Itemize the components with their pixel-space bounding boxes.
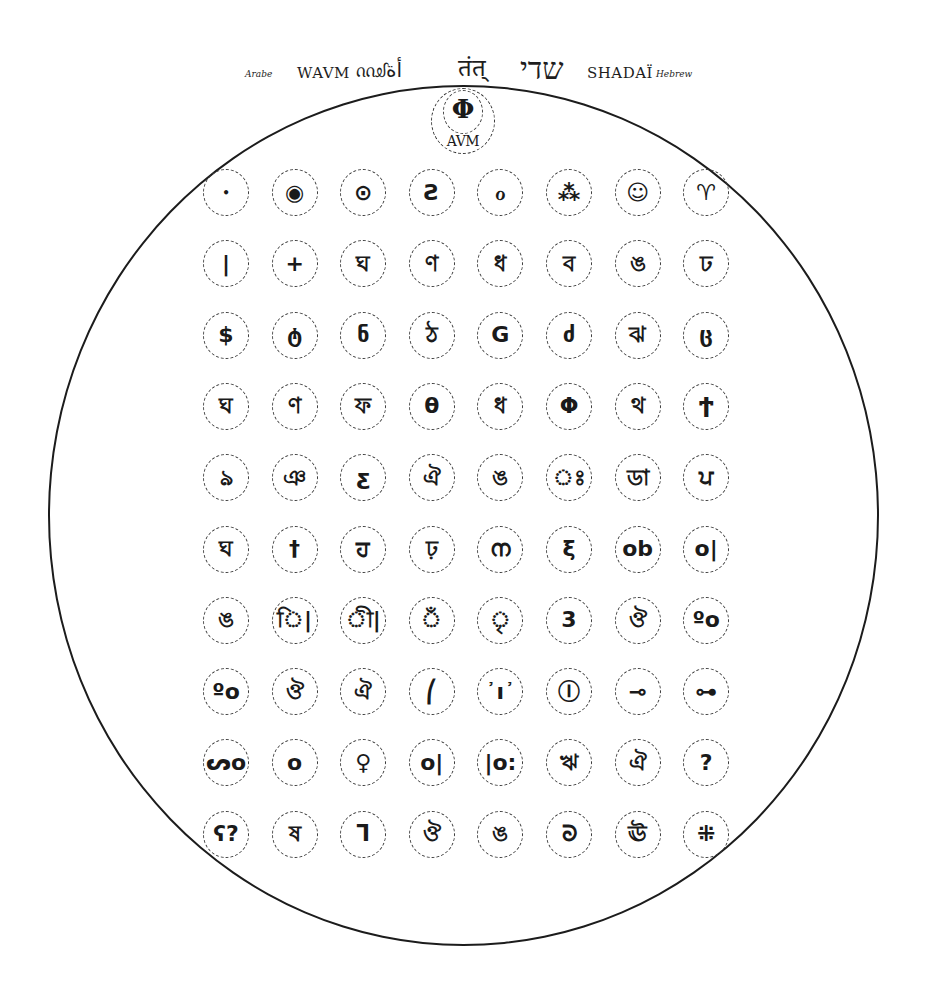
glyph-medallion: 3: [546, 597, 592, 644]
glyph-medallion: ঝ: [615, 312, 661, 359]
glyph-symbol-icon: ষ: [289, 823, 301, 845]
glyph-symbol-icon: ঙ: [218, 609, 234, 631]
glyph-symbol-icon: ნ: [357, 324, 370, 346]
glyph-medallion: ধ: [477, 240, 523, 287]
glyph-medallion: ঢ়: [409, 526, 455, 573]
glyph-symbol-icon: ফ: [355, 395, 371, 417]
glyph-symbol-icon: ന: [490, 538, 510, 560]
glyph-medallion: ঢ: [683, 240, 729, 287]
glyph-medallion: ਪ: [683, 454, 729, 501]
glyph-medallion: ঘ: [203, 526, 249, 573]
glyph-medallion: ঃ: [546, 454, 592, 501]
glyph-symbol-icon: ঙ: [630, 253, 646, 275]
glyph-medallion: ტ: [272, 312, 318, 359]
glyph-medallion: ℴ: [477, 169, 523, 216]
glyph-medallion: ঔ: [409, 811, 455, 858]
glyph-symbol-icon: থ: [631, 395, 645, 417]
glyph-symbol-icon: ঙ: [492, 467, 508, 489]
glyph-medallion: ნ: [340, 312, 386, 359]
apex-label: AVM: [431, 133, 495, 149]
glyph-symbol-icon: ℴ: [495, 182, 505, 204]
glyph-symbol-icon: ᔕo: [206, 752, 246, 774]
glyph-symbol-icon: ধ: [494, 395, 506, 417]
glyph-medallion: ঙ: [477, 811, 523, 858]
glyph-medallion: ঌ: [203, 454, 249, 501]
glyph-medallion: ☺: [615, 169, 661, 216]
glyph-grid: •◉⊙Ƨℴ⁂☺♈|+ঘণধবঙঢ$ტნঠGძঝცঘণফθধΦথϮঌঞƹঐঙঃডা…: [203, 169, 733, 859]
glyph-symbol-icon: ც: [699, 324, 713, 346]
glyph-symbol-icon: ƹ: [356, 467, 370, 489]
glyph-medallion: ঁ: [409, 597, 455, 644]
glyph-medallion: ਹ: [340, 526, 386, 573]
glyph-symbol-icon: ঠ: [426, 324, 438, 346]
glyph-medallion: ঐ: [409, 454, 455, 501]
glyph-medallion: ষ: [272, 811, 318, 858]
glyph-symbol-icon: ঙ: [492, 823, 508, 845]
glyph-medallion: Ϯ: [683, 383, 729, 430]
glyph-symbol-icon: ᒣ: [356, 823, 370, 845]
glyph-symbol-icon: ⊶: [695, 681, 717, 703]
glyph-medallion: ঙ: [615, 240, 661, 287]
glyph-medallion: ⊶: [683, 668, 729, 715]
glyph-symbol-icon: ঔ: [629, 609, 647, 631]
glyph-symbol-icon: ξ: [563, 538, 576, 560]
glyph-medallion: ᘐ: [546, 811, 592, 858]
glyph-symbol-icon: ঁ: [421, 609, 442, 631]
glyph-medallion: ধ: [477, 383, 523, 430]
glyph-symbol-icon: ☺: [626, 182, 649, 204]
glyph-medallion: ξ: [546, 526, 592, 573]
plate: Arabe WAVM ᦶᦾأة तंत् שדי SHADAÏ Hebrew Φ…: [0, 0, 925, 1004]
glyph-symbol-icon: ঘ: [219, 395, 233, 417]
glyph-medallion: +: [272, 240, 318, 287]
glyph-medallion: ᔕo: [203, 739, 249, 786]
glyph-symbol-icon: ਪ: [699, 467, 713, 489]
glyph-symbol-icon: ঢ: [700, 253, 712, 275]
glyph-medallion: Φ: [546, 383, 592, 430]
glyph-medallion: ঠ: [409, 312, 455, 359]
glyph-symbol-icon: θ: [424, 395, 439, 417]
glyph-symbol-icon: ঢ়: [426, 538, 438, 560]
glyph-medallion: ঘ: [203, 383, 249, 430]
glyph-medallion: ণ: [272, 383, 318, 430]
glyph-medallion: ⁜: [683, 811, 729, 858]
glyph-medallion: ⊙: [340, 169, 386, 216]
hebrew-label: Hebrew: [656, 70, 692, 79]
glyph-symbol-icon: ঔ: [286, 681, 304, 703]
glyph-medallion: |o:: [477, 739, 523, 786]
glyph-medallion: ঔ: [615, 597, 661, 644]
glyph-medallion: ⊸: [615, 668, 661, 715]
glyph-symbol-icon: ºo: [692, 609, 720, 631]
glyph-symbol-icon: ºo: [212, 681, 240, 703]
glyph-symbol-icon: Ϯ: [699, 395, 714, 417]
glyph-symbol-icon: ঔ: [423, 823, 441, 845]
arabic-script: ᦶᦾأة: [356, 60, 402, 80]
glyph-medallion: ძ: [546, 312, 592, 359]
glyph-symbol-icon: ʕ?: [213, 823, 238, 845]
glyph-medallion: ঋ: [546, 739, 592, 786]
glyph-symbol-icon: Ƨ: [424, 182, 440, 204]
phi-symbol-icon: Φ: [431, 94, 495, 124]
glyph-medallion: •: [203, 169, 249, 216]
glyph-symbol-icon: ?: [700, 752, 713, 774]
glyph-medallion: ?: [683, 739, 729, 786]
glyph-symbol-icon: ტ: [287, 324, 302, 346]
glyph-symbol-icon: ঞ: [283, 467, 306, 489]
glyph-medallion: ♀: [340, 739, 386, 786]
glyph-medallion: ী|: [340, 597, 386, 644]
glyph-medallion: Ƨ: [409, 169, 455, 216]
glyph-symbol-icon: ᴏ: [287, 752, 302, 774]
arabic-transliteration: WAVM: [297, 66, 350, 81]
glyph-symbol-icon: ঐ: [423, 467, 441, 489]
glyph-medallion: ºo: [203, 668, 249, 715]
glyph-medallion: ന: [477, 526, 523, 573]
glyph-medallion: |: [203, 240, 249, 287]
glyph-medallion: ঙ: [203, 597, 249, 644]
glyph-symbol-icon: $: [218, 324, 233, 346]
glyph-medallion: ʕ?: [203, 811, 249, 858]
glyph-medallion: থ: [615, 383, 661, 430]
glyph-medallion: ঔ: [272, 668, 318, 715]
glyph-medallion: ც: [683, 312, 729, 359]
glyph-medallion: ᴏ: [272, 739, 318, 786]
glyph-medallion: ঙ: [477, 454, 523, 501]
glyph-medallion: ব: [546, 240, 592, 287]
